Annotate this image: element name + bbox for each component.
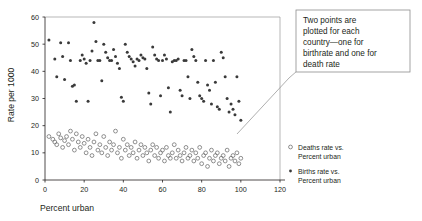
data-point-death-rate bbox=[233, 159, 237, 163]
data-point-birth-rate bbox=[79, 59, 82, 62]
data-point-birth-rate bbox=[235, 75, 238, 78]
x-tick-label: 120 bbox=[274, 185, 286, 194]
data-point-birth-rate bbox=[151, 45, 154, 48]
data-point-death-rate bbox=[135, 156, 139, 160]
data-point-death-rate bbox=[165, 146, 169, 150]
data-point-death-rate bbox=[159, 151, 163, 155]
data-point-death-rate bbox=[59, 136, 63, 140]
data-point-death-rate bbox=[194, 151, 198, 155]
data-point-death-rate bbox=[141, 154, 145, 158]
data-point-death-rate bbox=[206, 165, 210, 169]
data-point-birth-rate bbox=[208, 89, 211, 92]
y-tick-label: 40 bbox=[31, 67, 39, 76]
data-point-death-rate bbox=[74, 132, 78, 136]
data-point-birth-rate bbox=[98, 59, 101, 62]
scatter-plot-figure: 0102030405060 020406080100120 Rate per 1… bbox=[0, 0, 422, 221]
data-point-death-rate bbox=[127, 154, 131, 158]
data-point-birth-rate bbox=[188, 97, 191, 100]
data-point-birth-rate bbox=[91, 49, 94, 52]
data-point-birth-rate bbox=[55, 75, 58, 78]
data-point-death-rate bbox=[225, 148, 229, 152]
data-point-death-rate bbox=[208, 156, 212, 160]
legend-marker-deaths-icon bbox=[289, 145, 293, 149]
data-point-birth-rate bbox=[157, 59, 160, 62]
data-point-death-rate bbox=[71, 137, 75, 141]
data-point-birth-rate bbox=[239, 119, 242, 122]
data-point-birth-rate bbox=[233, 113, 236, 116]
data-point-death-rate bbox=[84, 151, 88, 155]
data-point-death-rate bbox=[108, 140, 112, 144]
data-point-death-rate bbox=[137, 148, 141, 152]
data-point-death-rate bbox=[172, 143, 176, 147]
data-point-death-rate bbox=[102, 135, 106, 139]
y-tick-label: 0 bbox=[35, 176, 39, 185]
data-point-death-rate bbox=[57, 132, 61, 136]
data-point-birth-rate bbox=[220, 51, 223, 54]
data-point-birth-rate bbox=[163, 54, 166, 57]
y-tick-label: 50 bbox=[31, 40, 39, 49]
data-point-birth-rate bbox=[212, 59, 215, 62]
data-point-death-rate bbox=[94, 132, 98, 136]
y-tick-label: 30 bbox=[31, 94, 39, 103]
x-axis-ticks: 020406080100120 bbox=[43, 180, 286, 194]
data-point-death-rate bbox=[180, 159, 184, 163]
data-point-death-rate bbox=[80, 135, 84, 139]
data-point-death-rate bbox=[153, 154, 157, 158]
data-point-birth-rate bbox=[232, 108, 235, 111]
data-point-birth-rate bbox=[224, 75, 227, 78]
data-point-birth-rate bbox=[59, 41, 62, 44]
data-point-birth-rate bbox=[89, 59, 92, 62]
data-point-birth-rate bbox=[204, 59, 207, 62]
data-point-birth-rate bbox=[185, 59, 188, 62]
data-point-birth-rate bbox=[53, 58, 56, 61]
data-point-death-rate bbox=[47, 135, 51, 139]
data-point-birth-rate bbox=[87, 100, 90, 103]
data-point-birth-rate bbox=[63, 78, 66, 81]
data-point-death-rate bbox=[149, 148, 153, 152]
data-point-birth-rate bbox=[145, 67, 148, 70]
data-point-death-rate bbox=[119, 156, 123, 160]
data-point-birth-rate bbox=[206, 83, 209, 86]
x-tick-label: 40 bbox=[119, 185, 127, 194]
data-point-birth-rate bbox=[237, 100, 240, 103]
legend-births-line-1: Births rate vs. bbox=[298, 168, 340, 175]
data-point-death-rate bbox=[217, 162, 221, 166]
data-point-birth-rate bbox=[138, 59, 141, 62]
data-point-birth-rate bbox=[167, 86, 170, 89]
data-point-death-rate bbox=[69, 129, 73, 133]
data-point-death-rate bbox=[157, 156, 161, 160]
data-point-death-rate bbox=[143, 146, 147, 150]
x-tick-label: 0 bbox=[43, 185, 47, 194]
y-axis-ticks: 0102030405060 bbox=[31, 13, 45, 185]
data-point-birth-rate bbox=[132, 60, 135, 63]
data-point-birth-rate bbox=[81, 54, 84, 57]
series-deaths-rate-points bbox=[47, 129, 243, 168]
data-point-death-rate bbox=[100, 151, 104, 155]
callout-line-2: plotted for each bbox=[303, 27, 360, 36]
data-point-death-rate bbox=[239, 156, 243, 160]
data-point-birth-rate bbox=[228, 111, 231, 114]
data-point-birth-rate bbox=[214, 81, 217, 84]
data-point-death-rate bbox=[139, 143, 143, 147]
legend-deaths-line-1: Deaths rate vs. bbox=[298, 144, 344, 151]
data-point-birth-rate bbox=[181, 94, 184, 97]
data-point-death-rate bbox=[123, 148, 127, 152]
data-point-death-rate bbox=[106, 154, 110, 158]
data-point-birth-rate bbox=[85, 62, 88, 65]
data-point-death-rate bbox=[104, 146, 108, 150]
data-point-birth-rate bbox=[190, 48, 193, 51]
data-point-death-rate bbox=[161, 148, 165, 152]
data-point-death-rate bbox=[63, 139, 67, 143]
data-point-death-rate bbox=[82, 141, 86, 145]
data-point-death-rate bbox=[184, 146, 188, 150]
data-point-death-rate bbox=[65, 135, 69, 139]
data-point-birth-rate bbox=[218, 108, 221, 111]
data-point-death-rate bbox=[237, 162, 241, 166]
data-point-birth-rate bbox=[69, 59, 72, 62]
data-point-death-rate bbox=[55, 143, 59, 147]
data-point-birth-rate bbox=[75, 100, 78, 103]
y-tick-label: 60 bbox=[31, 13, 39, 22]
data-point-birth-rate bbox=[130, 58, 133, 61]
data-point-death-rate bbox=[90, 154, 94, 158]
data-point-birth-rate bbox=[202, 100, 205, 103]
